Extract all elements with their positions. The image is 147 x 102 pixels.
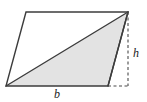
base-label: b: [54, 87, 60, 101]
parallelogram-height-figure: h b: [0, 0, 147, 102]
height-label: h: [133, 46, 139, 60]
figure-canvas: h b: [0, 0, 147, 102]
